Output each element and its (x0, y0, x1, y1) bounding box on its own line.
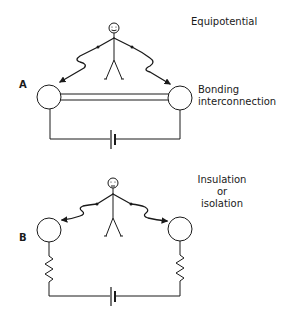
panel-a-diagram (37, 23, 192, 149)
person-icon (104, 178, 123, 236)
right-lead-wire (114, 38, 170, 84)
bonding-label-line1: Bonding (198, 84, 239, 96)
circuit-wire-right (116, 110, 180, 139)
right-lead-wire (113, 194, 167, 221)
right-conductor (168, 217, 192, 241)
left-conductor (37, 218, 61, 242)
contact-dot (130, 203, 133, 206)
contact-dot (131, 46, 134, 49)
panel-b-title-line2: or (192, 186, 252, 198)
bonding-label-line2: interconnection (198, 96, 276, 108)
person-icon (104, 23, 124, 79)
right-resistor-icon (116, 241, 184, 296)
battery-icon (111, 130, 115, 149)
contact-dot (97, 46, 100, 49)
diagram-canvas (0, 0, 283, 318)
panel-b-title-line1: Insulation (192, 174, 252, 186)
panel-a-title: Equipotential (191, 16, 257, 28)
panel-a-label: A (19, 79, 27, 91)
left-lead-wire (62, 194, 113, 220)
contact-dot (96, 203, 99, 206)
panel-b-title-line3: isolation (192, 198, 252, 210)
circuit-wire-left (50, 109, 110, 139)
panel-b-diagram (37, 178, 192, 306)
right-conductor (168, 86, 192, 110)
left-resistor-icon (45, 242, 110, 296)
left-conductor (37, 85, 61, 109)
battery-icon (111, 287, 115, 306)
left-lead-wire (60, 38, 114, 82)
panel-b-label: B (19, 232, 27, 244)
